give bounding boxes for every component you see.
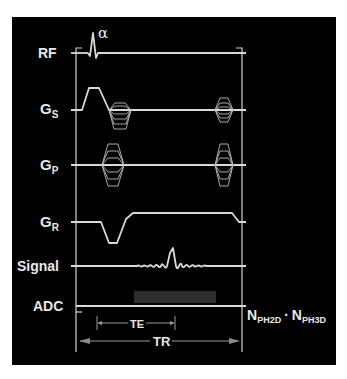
row-label-signal: Signal xyxy=(17,258,59,274)
adc-row xyxy=(76,291,246,312)
adc-readout-window xyxy=(134,291,216,303)
te-label: TE xyxy=(130,318,144,330)
row-label-gr: GR xyxy=(40,213,60,233)
row-label-rf: RF xyxy=(38,45,57,61)
gp-waveform xyxy=(71,144,246,186)
row-label-adc: ADC xyxy=(33,298,63,314)
row-label-gp: GP xyxy=(40,156,59,176)
gs-waveform xyxy=(71,88,246,129)
row-label-gs: GS xyxy=(40,100,59,120)
pulse-sequence-diagram: RF GS GP GR Signal ADC α xyxy=(0,0,347,379)
repetition-factor: NPH2D·NPH3D xyxy=(247,307,326,325)
signal-waveform xyxy=(71,248,246,268)
gr-waveform xyxy=(71,213,246,243)
flip-angle-label: α xyxy=(98,24,108,42)
tr-label: TR xyxy=(153,334,171,349)
